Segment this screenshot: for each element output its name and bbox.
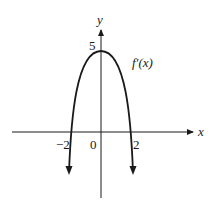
curve-label: f′(x) (132, 55, 153, 70)
x-tick-neg2: −2 (56, 137, 70, 152)
curve-arrow-right (130, 166, 137, 175)
curve-arrow-left (66, 166, 73, 175)
y-tick-5: 5 (89, 38, 96, 53)
x-tick-0: 0 (90, 137, 97, 152)
x-tick-2: 2 (133, 137, 140, 152)
chart: y x 5 −2 0 2 f′(x) (0, 0, 218, 208)
x-axis-label: x (197, 124, 204, 139)
plot-area: y x 5 −2 0 2 f′(x) (0, 0, 218, 208)
y-axis-label: y (95, 12, 103, 27)
